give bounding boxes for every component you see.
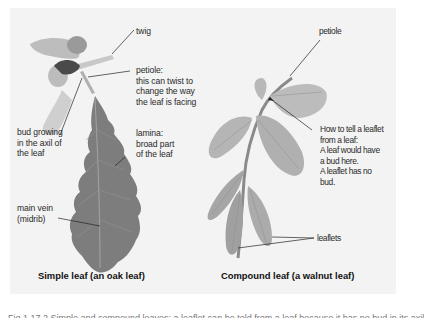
label-line: bud growing — [17, 127, 63, 138]
leaflet-icon — [247, 186, 272, 246]
figure-caption: Fig 1.17.2 Simple and compound leaves: a… — [8, 310, 424, 318]
label-line: main vein — [17, 203, 53, 214]
label-line: this can twist to — [136, 76, 196, 87]
label-lamina: lamina: broad part of the leaf — [136, 128, 174, 160]
petiole-icon — [80, 71, 95, 94]
leaflet-icon — [255, 78, 267, 100]
label-leaflets: leaflets — [317, 233, 341, 244]
label-twig: twig — [136, 26, 151, 37]
label-line: the leaf is facing — [136, 97, 196, 108]
label-line: of the leaf — [136, 149, 174, 160]
label-bud: bud growing in the axil of the leaf — [17, 127, 63, 159]
oak-leaf-icon — [70, 96, 141, 273]
petiole-leader-line — [88, 71, 130, 77]
label-leaflet-note: How to tell a leaflet from a leaf: A lea… — [320, 124, 383, 188]
label-line: How to tell a leaflet — [320, 124, 383, 135]
label-line: change the way — [136, 86, 196, 97]
label-line: bud. — [320, 177, 383, 188]
label-line: broad part — [136, 139, 174, 150]
compound-petiole-leader-line — [290, 40, 320, 76]
label-line: lamina: — [136, 128, 174, 139]
twig-leader-line — [112, 30, 134, 54]
label-line: the leaf — [17, 148, 63, 159]
walnut-leaf-group — [208, 40, 327, 258]
label-line: in the axil of — [17, 138, 63, 149]
label-line: (midrib) — [17, 214, 53, 225]
leaflet-icon — [209, 116, 252, 158]
label-line: from a leaf: — [320, 135, 383, 146]
label-line: petiole: — [136, 65, 196, 76]
label-petiole-compound: petiole — [319, 26, 341, 37]
simple-leaf-title: Simple leaf (an oak leaf) — [38, 270, 145, 281]
label-main-vein: main vein (midrib) — [17, 203, 53, 224]
compound-leaf-title: Compound leaf (a walnut leaf) — [221, 270, 354, 281]
label-line: a bud here. — [320, 156, 383, 167]
label-petiole-simple: petiole: this can twist to change the wa… — [136, 65, 196, 107]
label-line: A leaf would have — [320, 145, 383, 156]
leaflets-leader-line — [272, 237, 314, 238]
leaflets-leader-line — [238, 238, 314, 248]
label-line: A leaflet has no — [320, 166, 383, 177]
acorn-icon — [67, 36, 87, 54]
